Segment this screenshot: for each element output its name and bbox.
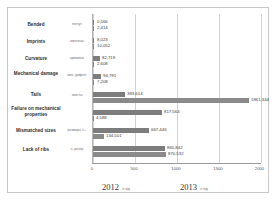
bar-value-2013: 7,208 (97, 80, 108, 84)
bar-value-2012: 865,842 (167, 146, 183, 150)
category-label-en: Mechanical damage (10, 71, 62, 77)
bar-value-2013: 4,588 (96, 116, 107, 120)
category-label-ru: вмятины (64, 40, 90, 44)
bar-value-2012: 82,719 (102, 56, 115, 60)
bar-value-2012: 667,446 (151, 128, 167, 132)
category-label-ru: размеры н... (64, 129, 90, 133)
legend-item-2013[interactable]: 2013з год (180, 176, 208, 194)
bar-value-2012: 383,614 (127, 92, 143, 96)
plot-area: 0,566 2,414 8,023 10,052 82,719 (92, 14, 260, 163)
category-label-en: Mismatched sizes (10, 128, 62, 134)
category-label-en: Imprints (10, 39, 62, 45)
bar-2013[interactable] (93, 44, 94, 49)
bar-2013[interactable] (93, 116, 94, 121)
bar-value-2012: 94,791 (103, 74, 116, 78)
category-label-en: Bended (10, 22, 62, 28)
bar-2013[interactable] (93, 80, 94, 85)
bar-2012[interactable] (93, 92, 125, 97)
bar-2012[interactable] (93, 38, 94, 43)
bar-2013[interactable] (93, 134, 104, 139)
bar-value-2012: 8,023 (97, 38, 108, 42)
legend-sub-label: з год (200, 187, 208, 191)
gridline (177, 14, 178, 163)
bar-2013[interactable] (93, 152, 166, 157)
bar-value-2013: 1861,344 (251, 98, 269, 102)
bar-value-2013: 2,414 (97, 26, 108, 30)
bar-2012[interactable] (93, 20, 94, 25)
category-label-ru: б. рёбер (64, 148, 90, 152)
legend-sub-label: з год (122, 187, 130, 191)
x-tick-label: 2000 (248, 166, 272, 171)
bar-value-2012: 0,566 (97, 20, 108, 24)
gridline (93, 14, 94, 163)
bar-chart: Bended Imprints Curvature Mechanical dam… (8, 8, 270, 194)
category-label-ru: мех. дефект (64, 74, 90, 78)
bar-value-2012: 817,564 (164, 110, 180, 114)
bar-2012[interactable] (93, 146, 165, 151)
bar-value-2013: 10,052 (97, 44, 110, 48)
category-label-en: Lack of ribs (10, 147, 62, 153)
category-label-en: Failure on mechanical properties (10, 106, 62, 117)
x-tick-label: 500 (122, 166, 146, 171)
x-tick-label: 1000 (164, 166, 188, 171)
gridline (135, 14, 136, 163)
chart-legend: 2012з год 2013з год (8, 176, 270, 192)
chart-frame: Bended Imprints Curvature Mechanical dam… (7, 7, 269, 193)
category-label-en: Curvature (10, 56, 62, 62)
bar-value-2013: 134,501 (106, 134, 122, 138)
bar-2013[interactable] (93, 62, 94, 67)
bar-value-2013: 870,532 (168, 152, 184, 156)
legend-item-2012[interactable]: 2012з год (102, 176, 130, 194)
category-label-ru: погнут (64, 23, 90, 27)
x-axis-line (92, 163, 261, 164)
bar-2013[interactable] (93, 98, 249, 103)
legend-year-label: 2013 (180, 182, 197, 192)
category-label-ru: хвосты (64, 94, 90, 98)
bar-2013[interactable] (93, 26, 94, 31)
gridline (261, 14, 262, 163)
category-label-ru: кривизна (64, 57, 90, 61)
gridline (219, 14, 220, 163)
bar-value-2013: 2,608 (97, 62, 108, 66)
legend-year-label: 2012 (102, 182, 119, 192)
x-tick-label: 1500 (206, 166, 230, 171)
x-tick-label: 0 (80, 166, 104, 171)
category-label-en: Tails (10, 92, 62, 98)
